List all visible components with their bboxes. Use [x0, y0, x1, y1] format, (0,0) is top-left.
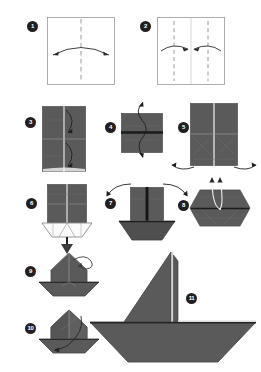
step-figure-7: [119, 183, 175, 241]
step-figure-2: [157, 17, 225, 85]
step-figure-6: [42, 184, 92, 246]
paper-rect-lower: [122, 134, 163, 153]
instruction-sheet: 1 2 3: [0, 0, 261, 372]
paper-panel-right: [149, 188, 164, 221]
step-badge-2: 2: [140, 21, 151, 32]
pull-down-stem: [66, 237, 68, 245]
arrowhead-rotate-bottom: [139, 153, 144, 158]
fold-line-center-gap: [146, 187, 149, 221]
step-badge-9: 9: [25, 266, 36, 277]
step-badge-5: 5: [178, 122, 189, 133]
step-badge-8: 8: [178, 200, 189, 211]
paper-panel-right: [68, 185, 87, 223]
step-badge-3: 3: [25, 117, 36, 128]
paper-panel-left: [131, 188, 146, 221]
step-figure-11: [90, 249, 256, 363]
step-badge-1: 1: [27, 21, 38, 32]
hull: [90, 322, 256, 362]
fold-line-center-dark: [121, 131, 163, 134]
arrowhead-lift-left: [209, 177, 214, 182]
step-figure-4: [121, 113, 163, 153]
hull-dark: [119, 221, 175, 240]
paper-panel-left: [48, 185, 67, 223]
paper-panel-left: [191, 104, 214, 166]
step-badge-4: 4: [105, 122, 116, 133]
hull-deck-highlight: [178, 320, 256, 322]
pivot-dot: [219, 208, 221, 210]
hull-white: [42, 223, 92, 237]
sail: [124, 252, 171, 322]
mast-right-face: [174, 255, 179, 322]
step-badge-7: 7: [105, 198, 116, 209]
step-figure-3: [42, 106, 86, 172]
peak-inner-left: [51, 310, 69, 339]
paper-panel-right: [215, 104, 238, 166]
step-figure-8: [190, 184, 250, 234]
step-badge-11: 11: [186, 293, 197, 304]
paper-rect-upper: [122, 114, 163, 133]
step-badge-10: 10: [25, 323, 36, 334]
step-badge-6: 6: [26, 198, 37, 209]
step-figure-1: [47, 17, 115, 85]
step-figure-5: [190, 103, 238, 173]
arrowhead-rotate-top: [139, 102, 144, 107]
arrowhead-lift-right: [217, 177, 222, 182]
